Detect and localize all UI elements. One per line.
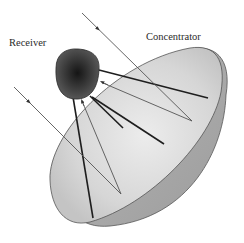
receiver [56,49,99,99]
concentrator-label: Concentrator [146,31,201,42]
receiver-label: Receiver [9,37,46,48]
